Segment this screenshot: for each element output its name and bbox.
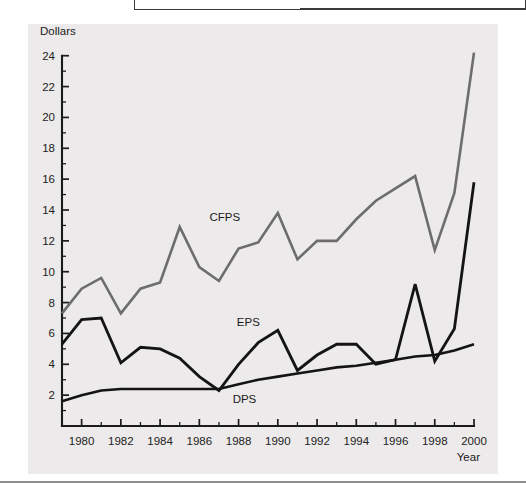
series-label-eps: EPS [237,316,260,328]
x-tick-label: 1992 [304,435,330,447]
series-label-dps: DPS [233,393,257,405]
axes [62,56,474,426]
series-line-dps [62,344,474,401]
x-tick-label: 2000 [461,435,487,447]
y-tick-label: 16 [42,173,55,185]
y-tick-label: 14 [42,204,55,216]
x-tick-label: 1984 [147,435,173,447]
series-label-cfps: CFPS [210,211,241,223]
x-tick-label: 1998 [422,435,448,447]
y-tick-label: 22 [42,81,55,93]
x-tick-label: 1988 [226,435,252,447]
y-tick-label: 20 [42,111,55,123]
bottom-horizontal-rule [0,481,526,483]
y-tick-label: 18 [42,142,55,154]
x-tick-label: 1994 [343,435,369,447]
x-tick-label: 1982 [108,435,134,447]
y-tick-label: 6 [49,327,55,339]
y-tick-label: 4 [49,358,56,370]
y-axis-title: Dollars [40,25,76,37]
line-chart: 2468101214161820222419801982198419861988… [28,24,498,474]
x-axis-title: Year [457,451,480,463]
y-tick-label: 12 [42,235,55,247]
top-horizontal-rule [300,8,526,10]
x-tick-label: 1990 [265,435,291,447]
x-tick-label: 1980 [69,435,95,447]
y-tick-label: 2 [49,389,55,401]
data-series [62,53,474,402]
y-tick-label: 10 [42,266,55,278]
series-line-eps [62,182,474,390]
y-tick-label: 24 [42,50,55,62]
x-tick-label: 1996 [383,435,409,447]
chart-figure-panel: 2468101214161820222419801982198419861988… [28,24,498,474]
series-annotations: CFPSEPSDPS [210,211,261,405]
series-line-cfps [62,53,474,314]
y-tick-label: 8 [49,297,55,309]
x-tick-label: 1986 [187,435,213,447]
tick-labels: 2468101214161820222419801982198419861988… [42,50,487,447]
